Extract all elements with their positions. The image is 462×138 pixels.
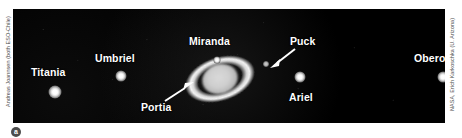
- sky-image-panel: Titania Umbriel Miranda Puck Ariel Obero…: [13, 9, 445, 123]
- photo-credit-left: Andreas Joannsen (both ESO-Chile): [5, 15, 11, 107]
- figure-part-badge: a: [11, 127, 21, 137]
- label-puck: Puck: [290, 36, 316, 47]
- label-portia: Portia: [141, 102, 171, 113]
- label-titania: Titania: [31, 67, 65, 78]
- label-umbriel: Umbriel: [95, 53, 135, 64]
- figure-root: Andreas Joannsen (both ESO-Chile) NASA, …: [0, 0, 462, 138]
- label-miranda: Miranda: [189, 36, 230, 47]
- photo-credit-right: NASA, Erich Karkoschka (U. Arizona): [449, 19, 455, 111]
- label-ariel: Ariel: [289, 92, 313, 103]
- label-oberon: Oberon: [414, 53, 445, 64]
